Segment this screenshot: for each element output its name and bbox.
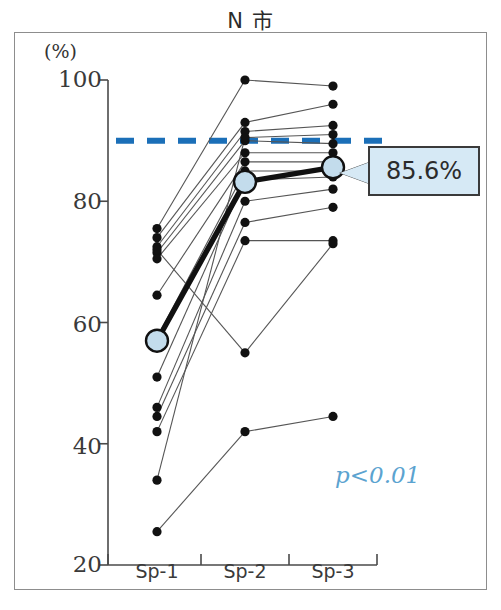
mean-line-segment-1 <box>245 167 333 182</box>
data-point-case-14-Sp-1 <box>152 527 161 536</box>
ytick-label-20: 20 <box>32 551 102 577</box>
data-point-case-10-Sp-3 <box>328 203 337 212</box>
data-point-case-6-Sp-2 <box>240 157 249 166</box>
xtick-label-sp3: Sp-3 <box>293 560 373 582</box>
trajectory-line-case-9-1 <box>245 189 333 201</box>
data-point-case-1-Sp-1 <box>152 224 161 233</box>
trajectory-line-case-2-0 <box>157 122 245 237</box>
data-point-case-2-Sp-1 <box>152 233 161 242</box>
trajectory-line-case-14-0 <box>157 432 245 532</box>
data-point-case-5-Sp-1 <box>152 254 161 263</box>
ytick-label-100: 100 <box>32 66 102 92</box>
data-point-case-4-Sp-3 <box>328 139 337 148</box>
data-point-case-5-Sp-2 <box>240 148 249 157</box>
trajectory-line-case-12-1 <box>245 135 333 138</box>
trajectory-line-case-9-0 <box>157 201 245 407</box>
data-point-case-13-Sp-3 <box>328 239 337 248</box>
mean-marker-Sp-1 <box>146 330 168 352</box>
data-point-case-12-Sp-1 <box>152 476 161 485</box>
trajectory-line-case-3-1 <box>245 125 333 131</box>
data-point-case-13-Sp-2 <box>240 348 249 357</box>
xtick-label-sp1: Sp-1 <box>117 560 197 582</box>
data-point-case-10-Sp-2 <box>240 218 249 227</box>
data-point-case-2-Sp-2 <box>240 118 249 127</box>
trajectory-line-case-13-1 <box>245 244 333 353</box>
data-point-case-1-Sp-2 <box>240 75 249 84</box>
trajectory-line-case-2-1 <box>245 104 333 122</box>
data-point-case-12-Sp-3 <box>328 130 337 139</box>
trajectory-line-case-14-1 <box>245 416 333 431</box>
trajectory-line-case-10-1 <box>245 207 333 222</box>
data-point-case-13-Sp-1 <box>152 245 161 254</box>
data-point-case-2-Sp-3 <box>328 100 337 109</box>
data-point-case-3-Sp-3 <box>328 121 337 130</box>
data-point-case-9-Sp-3 <box>328 185 337 194</box>
data-point-case-11-Sp-1 <box>152 427 161 436</box>
trajectory-line-case-11-0 <box>157 241 245 432</box>
xtick-label-sp2: Sp-2 <box>205 560 285 582</box>
data-point-case-14-Sp-3 <box>328 412 337 421</box>
callout-pointer-icon <box>340 162 370 184</box>
data-point-case-9-Sp-1 <box>152 403 161 412</box>
trajectory-line-case-6-0 <box>157 162 245 295</box>
data-point-case-11-Sp-2 <box>240 236 249 245</box>
trajectory-line-case-1-1 <box>245 80 333 86</box>
data-point-case-1-Sp-3 <box>328 81 337 90</box>
ytick-label-80: 80 <box>32 188 102 214</box>
data-point-case-10-Sp-1 <box>152 412 161 421</box>
data-point-case-12-Sp-2 <box>240 133 249 142</box>
p-value-annotation: p<0.01 <box>335 462 420 488</box>
ytick-label-40: 40 <box>32 433 102 459</box>
mean-marker-Sp-2 <box>234 171 256 193</box>
data-point-case-8-Sp-1 <box>152 372 161 381</box>
data-point-case-6-Sp-1 <box>152 291 161 300</box>
data-point-case-9-Sp-2 <box>240 197 249 206</box>
ytick-label-60: 60 <box>32 311 102 337</box>
mean-value-callout: 85.6% <box>368 146 480 196</box>
chart-root: N 市 (%) 100 80 60 40 20 Sp-1 Sp-2 Sp-3 8… <box>0 0 501 610</box>
data-point-case-14-Sp-2 <box>240 427 249 436</box>
